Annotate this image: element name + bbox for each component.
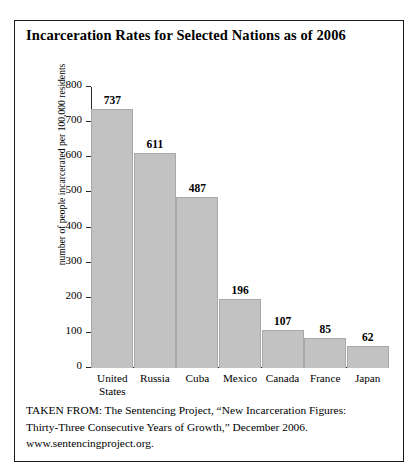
figure-frame: Incarceration Rates for Selected Nations… [14, 20, 404, 462]
citation-line-2: Thirty-Three Consecutive Years of Growth… [26, 419, 394, 436]
bar-value-label: 62 [347, 331, 389, 343]
y-tick-label: 600 [66, 148, 83, 160]
bar-value-label: 611 [134, 138, 176, 150]
x-axis-category-line: Japan [338, 372, 398, 385]
y-tick-label: 700 [66, 113, 83, 125]
bar-group: 196Mexico [219, 87, 261, 368]
x-axis-category-label: Japan [338, 372, 398, 385]
bar [304, 338, 346, 368]
y-tick-label: 300 [66, 254, 83, 266]
y-tick-label: 100 [66, 324, 83, 336]
bar [134, 153, 176, 368]
bar-group: 611Russia [134, 87, 176, 368]
bars-layer: 737UnitedStates611Russia487Cuba196Mexico… [91, 87, 389, 368]
bar-value-label: 85 [304, 323, 346, 335]
y-axis-title: number of people incarcerated per 100,00… [56, 40, 67, 290]
citation-line-3: www.sentencingproject.org. [26, 435, 394, 452]
bar [91, 109, 133, 368]
plot-axes: 0100200300400500600700800 737UnitedState… [91, 87, 389, 368]
bar-group: 737UnitedStates [91, 87, 133, 368]
bar-chart: number of people incarcerated per 100,00… [15, 55, 403, 385]
bar-value-label: 737 [91, 94, 133, 106]
source-citation: TAKEN FROM: The Sentencing Project, “New… [26, 402, 394, 452]
bar-group: 62Japan [347, 87, 389, 368]
bar-group: 107Canada [262, 87, 304, 368]
bar-group: 487Cuba [176, 87, 218, 368]
bar [219, 299, 261, 368]
chart-title: Incarceration Rates for Selected Nations… [26, 27, 346, 44]
bar-group: 85France [304, 87, 346, 368]
bar-value-label: 487 [176, 182, 218, 194]
bar [347, 346, 389, 368]
citation-line-1: TAKEN FROM: The Sentencing Project, “New… [26, 402, 394, 419]
bar-value-label: 196 [219, 284, 261, 296]
y-tick-label: 0 [77, 359, 83, 371]
y-tick-label: 400 [66, 219, 83, 231]
bar [176, 197, 218, 368]
x-axis-category-line: States [82, 385, 142, 398]
y-tick-label: 200 [66, 289, 83, 301]
bar-value-label: 107 [262, 315, 304, 327]
y-tick-label: 500 [66, 183, 83, 195]
y-tick-label: 800 [66, 78, 83, 90]
bar [262, 330, 304, 368]
